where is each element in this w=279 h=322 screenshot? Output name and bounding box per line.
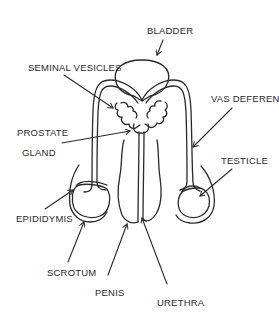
left-scrotum-shape (69, 165, 107, 222)
label-testicle: TESTICLE (221, 155, 268, 166)
bladder-shape (115, 60, 169, 101)
arrow-epididymis (45, 190, 73, 209)
arrow-vas-deferens (193, 108, 232, 147)
penis-shape (118, 140, 161, 223)
arrow-testicle (200, 169, 232, 196)
seminal-vesicles-shape (115, 101, 167, 129)
vas-deferens-left (84, 80, 142, 192)
label-prostate-gland-line1: PROSTATE (17, 127, 68, 138)
labels: BLADDER SEMINAL VESICLES VAS DEFERENS PR… (16, 25, 279, 308)
male-reproductive-diagram: BLADDER SEMINAL VESICLES VAS DEFERENS PR… (0, 0, 279, 322)
label-prostate-gland-line2: GLAND (22, 147, 56, 158)
label-bladder: BLADDER (147, 25, 193, 36)
arrow-scrotum (68, 222, 84, 262)
vas-deferens-right (142, 80, 200, 191)
arrow-prostate-gland (62, 131, 130, 143)
label-vas-deferens: VAS DEFERENS (211, 93, 279, 104)
left-testicle-shape (72, 181, 109, 217)
arrow-urethra (142, 218, 167, 284)
label-urethra: URETHRA (157, 297, 205, 308)
label-epididymis: EPIDIDYMIS (16, 213, 73, 224)
arrow-bladder (157, 40, 163, 55)
right-testicle-shape (178, 186, 209, 218)
urethra-shape (138, 132, 144, 222)
label-scrotum: SCROTUM (47, 267, 96, 278)
label-seminal-vesicles: SEMINAL VESICLES (28, 62, 122, 73)
arrow-penis (108, 224, 127, 275)
label-penis: PENIS (95, 287, 125, 298)
